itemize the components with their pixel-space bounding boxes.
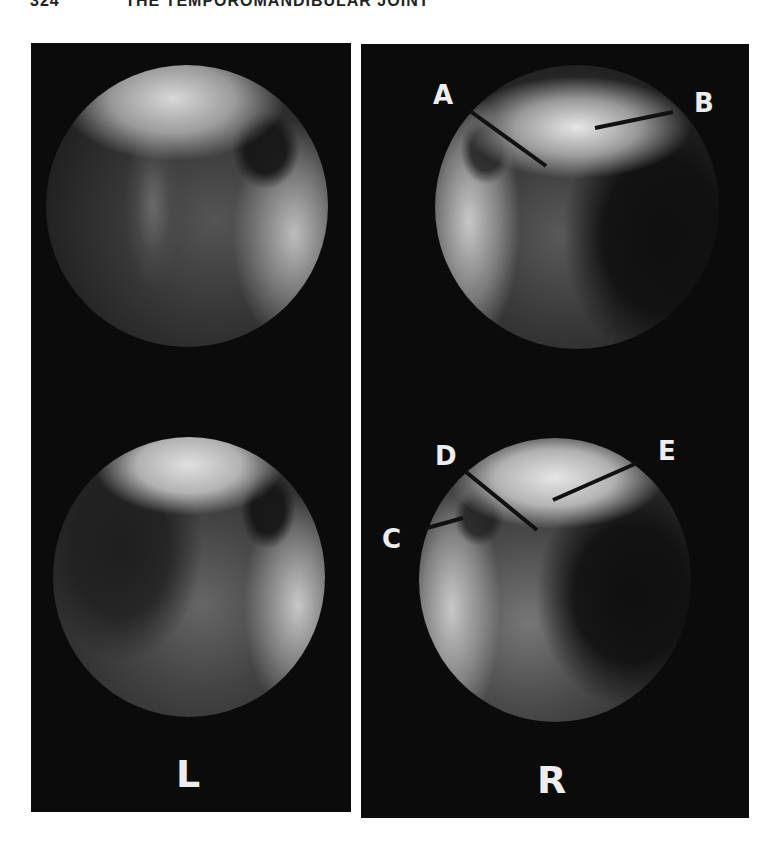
arthroscopic-view-left-upper xyxy=(46,65,328,347)
running-title: THE TEMPOROMANDIBULAR JOINT xyxy=(125,0,429,9)
running-header: 324 THE TEMPOROMANDIBULAR JOINT xyxy=(30,0,429,10)
arthroscopic-view-right-lower xyxy=(419,438,691,722)
label-d: D xyxy=(435,441,457,471)
label-a: A xyxy=(433,80,453,110)
arthroscopic-view-right-upper xyxy=(435,65,719,349)
side-label-right: R xyxy=(537,758,566,802)
page-number: 324 xyxy=(30,0,60,9)
side-label-left: L xyxy=(176,752,200,796)
label-c: C xyxy=(382,524,401,554)
label-b: B xyxy=(694,88,714,118)
arthroscopic-view-left-lower xyxy=(53,437,325,717)
label-e: E xyxy=(658,436,676,466)
